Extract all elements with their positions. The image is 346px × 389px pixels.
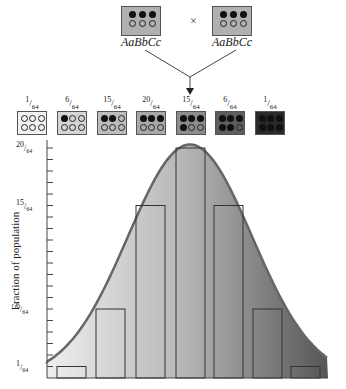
curve-fill bbox=[47, 145, 328, 378]
y-axis-title: Fraction of population bbox=[9, 206, 21, 316]
distribution-chart bbox=[0, 0, 346, 389]
y-tick-label: 6/64 bbox=[16, 301, 28, 315]
connector-left bbox=[145, 50, 190, 77]
y-tick-label: 15/64 bbox=[16, 198, 32, 212]
y-tick-label: 1/64 bbox=[16, 359, 28, 373]
arrow-down-icon bbox=[186, 88, 194, 95]
y-tick-label: 20/64 bbox=[16, 140, 32, 154]
connector-right bbox=[190, 50, 236, 77]
